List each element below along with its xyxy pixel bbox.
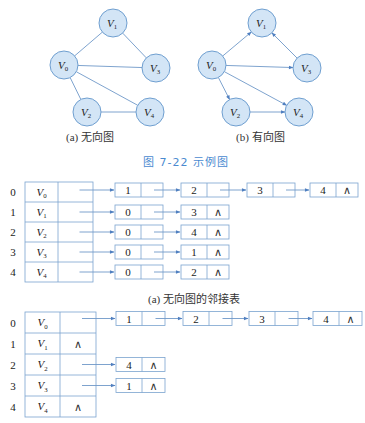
- vertex-cell-V1: V1: [36, 206, 46, 220]
- adjvex-value: 0: [125, 246, 131, 258]
- vertex-cell-V4: V4: [37, 400, 48, 414]
- adjacency-list-undirected-caption: (a) 无向图的邻接表: [148, 290, 240, 306]
- null-pointer: ∧: [343, 184, 351, 197]
- adjacency-list-directed: 0V01234∧1V1∧2V24∧3V31∧4V4∧: [10, 312, 362, 418]
- adjvex-value: 2: [191, 184, 197, 196]
- edge-V0-V2: [70, 78, 81, 100]
- vertex-cell-V0: V0: [37, 316, 48, 330]
- null-pointer: ∧: [346, 313, 354, 326]
- null-pointer: ∧: [214, 266, 222, 279]
- row-index: 2: [10, 359, 16, 371]
- null-pointer: ∧: [149, 359, 157, 372]
- adjvex-value: 0: [125, 226, 131, 238]
- edge-V0-V1: [75, 32, 103, 56]
- adjvex-value: 4: [323, 313, 329, 325]
- edge-V0-V2: [218, 77, 229, 99]
- edge-V0-V3: [226, 65, 293, 67]
- undirected-graph: V0V1V2V3V4: [50, 9, 170, 126]
- adjvex-value: 3: [191, 206, 197, 218]
- adjvex-value: 3: [259, 313, 265, 325]
- figure-caption: 图 7-22 示例图: [143, 153, 229, 169]
- directed-graph-caption: (b) 有向图: [236, 128, 285, 144]
- row-index: 0: [10, 317, 16, 329]
- row-index: 1: [10, 206, 16, 218]
- adjvex-value: 2: [193, 313, 199, 325]
- edge-V0-V3: [78, 65, 142, 67]
- row-index: 0: [10, 186, 16, 198]
- adjacency-list-undirected: 0V01234∧1V103∧2V204∧3V301∧4V402∧: [10, 182, 358, 282]
- vertex-cell-V2: V2: [37, 358, 48, 372]
- vertex-cell-V0: V0: [36, 186, 47, 200]
- row-index: 2: [10, 226, 16, 238]
- edge-node: [116, 358, 165, 372]
- edge-V0-V1: [223, 32, 252, 56]
- edge-node: [116, 379, 165, 393]
- adjvex-value: 0: [125, 206, 131, 218]
- null-pointer: ∧: [214, 226, 222, 239]
- graph-figure: V0V1V2V3V4 V0V1V2V3V4 0V01234∧1V103∧2V20…: [0, 0, 365, 423]
- null-pointer: ∧: [214, 206, 222, 219]
- vertex-cell-V1: V1: [37, 337, 47, 351]
- vertex-cell-V3: V3: [37, 379, 48, 393]
- adjvex-value: 4: [191, 226, 197, 238]
- adjvex-value: 1: [126, 380, 132, 392]
- vertex-cell-V2: V2: [36, 226, 47, 240]
- edge-V1-V3: [123, 33, 147, 58]
- adjvex-value: 2: [191, 266, 197, 278]
- adjvex-value: 4: [126, 359, 132, 371]
- null-pointer: ∧: [214, 246, 222, 259]
- vertex-cell-V3: V3: [36, 246, 47, 260]
- edge-V3-V1: [272, 33, 297, 58]
- edge-node: [313, 312, 362, 326]
- vertex-cell-V4: V4: [36, 266, 47, 280]
- undirected-graph-caption: (a) 无向图: [66, 128, 114, 144]
- adjvex-value: 3: [257, 184, 263, 196]
- row-index: 3: [10, 246, 16, 258]
- adjvex-value: 0: [125, 266, 131, 278]
- null-pointer: ∧: [74, 338, 82, 351]
- adjvex-value: 1: [191, 246, 197, 258]
- row-index: 1: [10, 338, 16, 350]
- row-index: 3: [10, 380, 16, 392]
- adjvex-value: 4: [320, 184, 326, 196]
- adjvex-value: 1: [126, 313, 132, 325]
- adjvex-value: 1: [125, 184, 131, 196]
- row-index: 4: [10, 266, 16, 278]
- null-pointer: ∧: [74, 401, 82, 414]
- directed-graph: V0V1V2V3V4: [198, 9, 321, 126]
- null-pointer: ∧: [149, 380, 157, 393]
- row-index: 4: [10, 401, 16, 413]
